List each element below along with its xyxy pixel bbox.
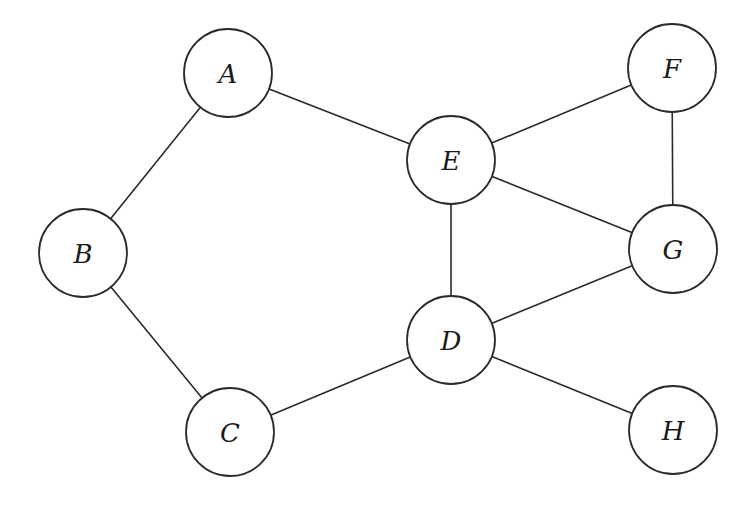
- node-c: C: [186, 388, 274, 476]
- node-label: A: [217, 59, 238, 89]
- node-h: H: [629, 386, 717, 474]
- node-e: E: [407, 116, 495, 204]
- node-f: F: [628, 24, 716, 112]
- node-a: A: [184, 29, 272, 117]
- node-b: B: [39, 209, 127, 297]
- node-label: E: [441, 146, 461, 176]
- node-g: G: [629, 205, 717, 293]
- node-label: C: [220, 418, 240, 448]
- node-label: F: [662, 54, 682, 84]
- node-label: B: [72, 239, 92, 269]
- node-label: G: [663, 235, 684, 265]
- graph-diagram: ABCDEFGH: [0, 0, 756, 506]
- edges-layer: [83, 68, 673, 432]
- node-label: D: [440, 326, 462, 356]
- node-label: H: [661, 416, 686, 446]
- node-d: D: [407, 296, 495, 384]
